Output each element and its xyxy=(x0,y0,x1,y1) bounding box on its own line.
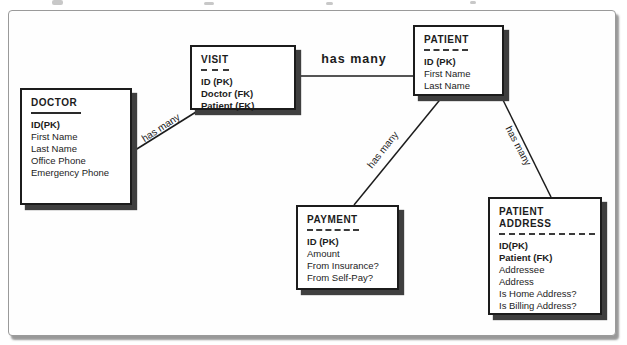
title-divider xyxy=(201,69,229,71)
entity-patient-address: PATIENT ADDRESS ID(PK) Patient (FK) Addr… xyxy=(488,197,602,315)
entity-doctor: DOCTOR ID(PK) First Name Last Name Offic… xyxy=(20,88,132,205)
relationship-label-visit-patient: has many xyxy=(302,52,406,66)
entity-field: Last Name xyxy=(424,80,494,92)
entity-title: PATIENT xyxy=(424,34,494,46)
entity-field: Doctor (FK) xyxy=(201,88,286,100)
entity-field: ID(PK) xyxy=(499,240,592,252)
scan-artifact xyxy=(470,1,476,4)
entity-field: ID (PK) xyxy=(201,76,286,88)
entity-field: Address xyxy=(499,276,592,288)
entity-payment: PAYMENT ID (PK) Amount From Insurance? F… xyxy=(296,205,399,290)
entity-field: Is Billing Address? xyxy=(499,300,592,312)
title-divider xyxy=(307,229,359,231)
entity-title: VISIT xyxy=(201,54,286,66)
entity-field: Emergency Phone xyxy=(31,167,122,179)
entity-field: Addressee xyxy=(499,264,592,276)
entity-title: DOCTOR xyxy=(31,97,122,109)
title-divider xyxy=(424,49,468,51)
entity-visit: VISIT ID (PK) Doctor (FK) Patient (FK) xyxy=(190,45,296,110)
entity-field: From Insurance? xyxy=(307,260,389,272)
title-divider xyxy=(499,233,595,235)
entity-field: ID (PK) xyxy=(424,56,494,68)
entity-field: From Self-Pay? xyxy=(307,272,389,284)
entity-title: PATIENT ADDRESS xyxy=(499,206,592,230)
entity-patient: PATIENT ID (PK) First Name Last Name xyxy=(413,25,504,96)
entity-field: Is Home Address? xyxy=(499,288,592,300)
entity-field: Amount xyxy=(307,248,389,260)
entity-field: First Name xyxy=(31,131,122,143)
entity-title: PAYMENT xyxy=(307,214,389,226)
entity-field: Office Phone xyxy=(31,155,122,167)
entity-field: Patient (FK) xyxy=(201,100,286,112)
entity-field: First Name xyxy=(424,68,494,80)
entity-field: ID (PK) xyxy=(307,236,389,248)
entity-field: Last Name xyxy=(31,143,122,155)
scan-artifact xyxy=(326,2,333,5)
title-divider xyxy=(31,112,81,114)
scan-artifact xyxy=(204,2,214,5)
entity-field: ID(PK) xyxy=(31,119,122,131)
entity-field: Patient (FK) xyxy=(499,252,592,264)
scan-artifact xyxy=(52,0,63,5)
